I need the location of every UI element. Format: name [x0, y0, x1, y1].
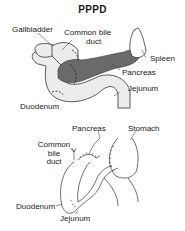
stomach-stitch-line	[109, 146, 114, 171]
jejunal-loop-inner	[78, 162, 112, 202]
label-stomach: Stomach	[128, 125, 160, 134]
bile-duct-stub	[72, 148, 76, 160]
efferent-limb-2	[128, 178, 138, 202]
label-duodenum-bottom: Duodenum	[16, 203, 55, 212]
stitch-line	[80, 152, 96, 158]
label-jejunum-bottom: Jejunum	[60, 215, 90, 224]
pancreas-remnant	[90, 138, 100, 152]
stomach-shape	[109, 138, 138, 178]
label-duct-line: duct	[36, 158, 72, 167]
jejunal-loop-outer	[61, 162, 119, 213]
pancreatic-anastomosis	[78, 154, 100, 160]
label-pancreas-bottom: Pancreas	[72, 125, 106, 134]
efferent-limb	[104, 178, 118, 206]
bottom-reconstruction-illustration	[0, 0, 185, 231]
label-common-bile-duct-bottom: Common bile duct	[36, 141, 72, 167]
duodenojejunal-stitches	[70, 200, 76, 207]
